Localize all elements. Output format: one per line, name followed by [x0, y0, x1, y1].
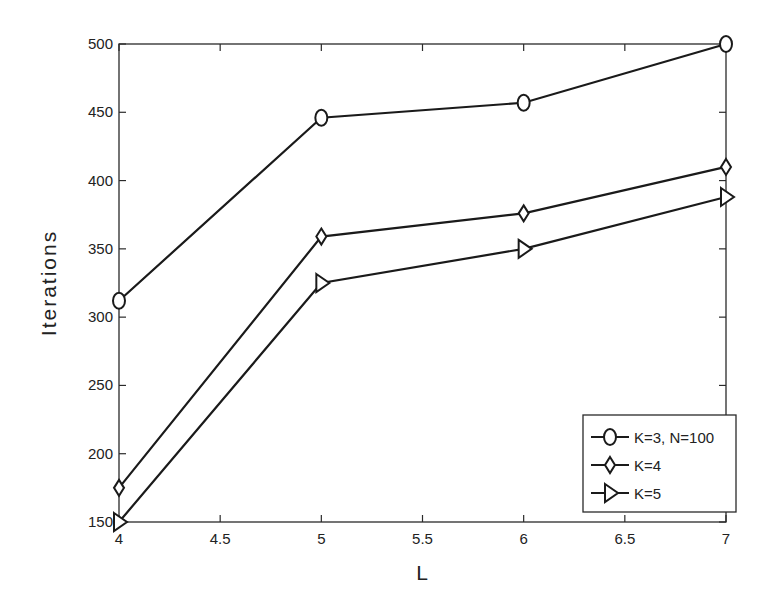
- diamond-marker: [519, 205, 529, 221]
- x-tick-label: 6.5: [614, 530, 635, 547]
- x-tick-label: 5: [317, 530, 325, 547]
- triangle-right-marker: [519, 240, 532, 258]
- legend: K=3, N=100K=4K=5: [583, 415, 736, 512]
- y-tick-label: 150: [88, 513, 113, 530]
- line-chart: 44.555.566.57150200250300350400450500 L …: [0, 0, 769, 603]
- y-axis-label: Iterations: [37, 230, 60, 336]
- circle-marker: [518, 95, 530, 111]
- y-tick-label: 500: [88, 35, 113, 52]
- series-line: [119, 44, 726, 301]
- triangle-right-marker: [316, 274, 329, 292]
- x-tick-label: 5.5: [412, 530, 433, 547]
- triangle-right-marker: [721, 188, 734, 206]
- circle-marker: [720, 36, 732, 52]
- series-1: [113, 36, 732, 309]
- diamond-marker: [721, 159, 731, 175]
- circle-marker: [315, 110, 327, 126]
- x-tick-label: 4.5: [210, 530, 231, 547]
- legend-label: K=4: [634, 457, 661, 474]
- y-tick-label: 200: [88, 445, 113, 462]
- x-tick-label: 6: [519, 530, 527, 547]
- legend-item: K=3, N=100: [591, 429, 714, 446]
- legend-label: K=5: [634, 485, 661, 502]
- circle-marker: [113, 293, 125, 309]
- x-axis-label: L: [416, 561, 428, 584]
- x-tick-label: 7: [722, 530, 730, 547]
- y-tick-label: 450: [88, 103, 113, 120]
- y-tick-label: 350: [88, 240, 113, 257]
- y-tick-label: 300: [88, 308, 113, 325]
- legend-label: K=3, N=100: [634, 429, 714, 446]
- x-tick-label: 4: [115, 530, 123, 547]
- y-tick-label: 250: [88, 376, 113, 393]
- legend-circle-icon: [604, 429, 616, 445]
- y-tick-label: 400: [88, 172, 113, 189]
